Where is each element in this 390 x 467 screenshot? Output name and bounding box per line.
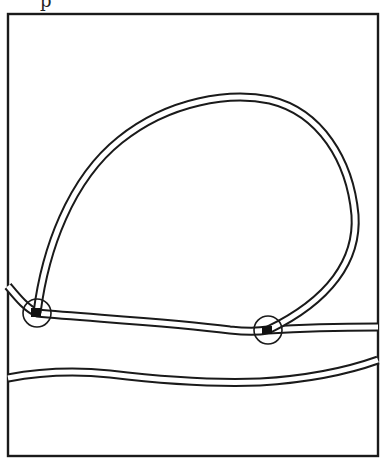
left-junction-dot [31,308,41,317]
track-loop-diagram [0,0,390,467]
lower-track [8,360,378,383]
diagram-frame [8,14,378,456]
right-junction-dot [262,326,272,334]
loop-track [37,97,355,330]
